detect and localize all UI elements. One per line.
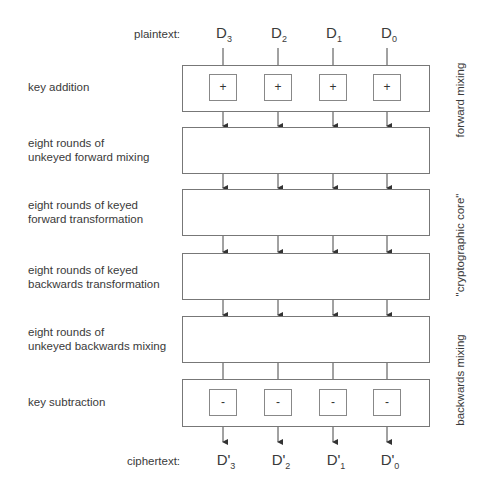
stage-label-key-subtraction: key subtraction [28, 395, 105, 409]
label-line: eight rounds of keyed [28, 198, 143, 212]
word-index: 0 [392, 34, 397, 44]
stage-box-keyed-backwards-transformation [182, 253, 430, 300]
word-base: D' [272, 451, 286, 468]
label-line: eight rounds of [28, 136, 149, 150]
word-index: 1 [340, 461, 345, 471]
plaintext-word-d3: D3 [216, 24, 232, 44]
word-base: D [216, 24, 227, 41]
stage-label-key-addition: key addition [28, 80, 89, 94]
word-base: D' [327, 451, 341, 468]
plaintext-label: plaintext: [134, 28, 180, 40]
ciphertext-word-d1: D'1 [327, 451, 346, 471]
plaintext-word-d0: D0 [381, 24, 397, 44]
ciphertext-label: ciphertext: [127, 455, 180, 467]
subtract-operator-box: - [373, 389, 401, 416]
stage-box-keyed-forward-transformation [182, 189, 430, 236]
stage-label-unkeyed-backwards-mixing: eight rounds of unkeyed backwards mixing [28, 325, 166, 353]
ciphertext-word-d3: D'3 [217, 451, 236, 471]
add-operator-box: + [264, 74, 292, 101]
side-label-forward-mixing: forward mixing [454, 63, 466, 138]
word-base: D [326, 24, 337, 41]
plaintext-word-d2: D2 [271, 24, 287, 44]
label-line: backwards transformation [28, 277, 160, 291]
stage-label-keyed-forward-transformation: eight rounds of keyed forward transforma… [28, 198, 143, 226]
plaintext-word-d1: D1 [326, 24, 342, 44]
label-line: eight rounds of keyed [28, 263, 160, 277]
word-index: 0 [394, 461, 399, 471]
stage-label-unkeyed-forward-mixing: eight rounds of unkeyed forward mixing [28, 136, 149, 164]
add-operator-box: + [209, 74, 237, 101]
label-line: unkeyed backwards mixing [28, 339, 166, 353]
word-base: D [271, 24, 282, 41]
label-line: unkeyed forward mixing [28, 150, 149, 164]
ciphertext-word-d2: D'2 [272, 451, 291, 471]
ciphertext-word-d0: D'0 [381, 451, 400, 471]
word-base: D [381, 24, 392, 41]
subtract-operator-box: - [209, 389, 237, 416]
word-index: 3 [227, 34, 232, 44]
side-label-backwards-mixing: backwards mixing [454, 334, 466, 425]
stage-box-unkeyed-backwards-mixing [182, 316, 430, 363]
word-index: 3 [230, 461, 235, 471]
add-operator-box: + [373, 74, 401, 101]
word-index: 1 [337, 34, 342, 44]
side-label-cryptographic-core: "cryptographic core" [454, 194, 466, 297]
word-index: 2 [282, 34, 287, 44]
word-index: 2 [285, 461, 290, 471]
add-operator-box: + [319, 74, 347, 101]
stage-label-keyed-backwards-transformation: eight rounds of keyed backwards transfor… [28, 263, 160, 291]
label-line: forward transformation [28, 212, 143, 226]
label-line: eight rounds of [28, 325, 166, 339]
subtract-operator-box: - [264, 389, 292, 416]
stage-box-unkeyed-forward-mixing [182, 127, 430, 174]
word-base: D' [217, 451, 231, 468]
word-base: D' [381, 451, 395, 468]
subtract-operator-box: - [319, 389, 347, 416]
